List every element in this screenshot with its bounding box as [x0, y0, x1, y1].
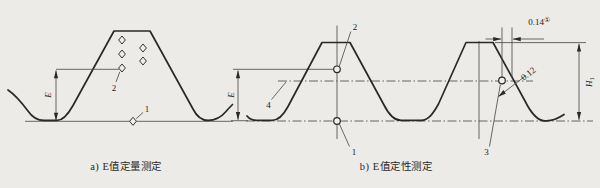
figure-a-drawing: E 2 1 [8, 31, 233, 125]
ball-position-circle-marker-3 [499, 77, 506, 84]
point-label-4-b: 4 [266, 100, 271, 110]
point-label-1-b: 1 [352, 147, 357, 157]
ball-position-diamond-marker-root [130, 117, 137, 125]
crest-offset-dimension-text: 0.14① [528, 16, 550, 28]
e-dimension-label-b: E [226, 92, 236, 99]
leader-line-point4-b [272, 82, 287, 100]
leader-line-point1-a [136, 112, 143, 118]
leader-line-point1-b [339, 124, 349, 147]
scanned-diagram-page: E 2 1 E [0, 0, 600, 188]
e-dimension-label-a: E [43, 92, 53, 99]
ball-position-diamond-marker [140, 44, 147, 52]
ball-position-diamond-marker [119, 64, 126, 72]
ball-position-diamond-marker [119, 50, 126, 58]
point-label-1-a: 1 [145, 104, 150, 114]
ball-position-diamond-marker [119, 36, 126, 44]
leader-line-point2-a [116, 72, 120, 82]
h1-dimension-label: H1 [584, 77, 595, 88]
thread-profile-a [8, 31, 233, 120]
figure-b-drawing: E H1 0.14① 0.12 2 1 3 [226, 16, 595, 157]
leader-line-point3-b [490, 85, 501, 147]
point-label-2-b: 2 [353, 22, 358, 32]
flank-offset-dimension-text: 0.12 [519, 65, 538, 83]
thread-profile-b [247, 43, 564, 121]
leader-line-point2-b [339, 32, 350, 67]
ball-position-diamond-marker [140, 57, 147, 65]
figure-a-caption: a) E值定量测定 [46, 159, 206, 175]
point-label-3-b: 3 [484, 147, 489, 157]
ball-position-circle-marker-2 [334, 66, 341, 73]
figure-b-caption: b) E值定性测定 [316, 159, 476, 175]
point-label-2-a: 2 [112, 83, 117, 93]
ball-position-circle-marker-1 [334, 118, 341, 125]
